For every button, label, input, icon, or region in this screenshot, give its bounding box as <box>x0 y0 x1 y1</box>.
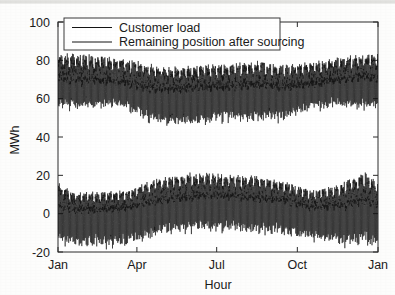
y-tick-label: 20 <box>36 169 50 183</box>
y-tick-label: 60 <box>36 92 50 106</box>
legend-label-customer-load: Customer load <box>119 21 200 35</box>
y-tick-label: 80 <box>36 54 50 68</box>
legend-label-remaining-position: Remaining position after sourcing <box>119 35 305 49</box>
x-tick-label: Jan <box>368 258 388 272</box>
x-tick-label: Jan <box>48 258 68 272</box>
x-axis-title: Hour <box>204 278 231 292</box>
y-tick-label: 100 <box>29 16 50 30</box>
chart-canvas: -20020406080100 JanAprJulOctJan MWh Hour… <box>0 0 395 295</box>
y-tick-label: 40 <box>36 131 50 145</box>
x-tick-label: Oct <box>288 258 308 272</box>
chart-figure: -20020406080100 JanAprJulOctJan MWh Hour… <box>0 0 395 295</box>
y-axis-title: MWh <box>8 125 22 154</box>
chart-legend: Customer load Remaining position after s… <box>64 18 305 50</box>
x-tick-label: Apr <box>127 258 146 272</box>
x-tick-label: Jul <box>209 258 225 272</box>
y-tick-label: 0 <box>43 207 50 221</box>
